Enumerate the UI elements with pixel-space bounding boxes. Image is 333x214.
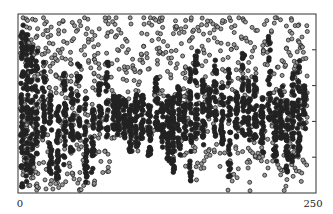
- data-point: [105, 70, 110, 75]
- data-point: [250, 25, 254, 29]
- data-point: [101, 171, 105, 175]
- data-point: [304, 56, 308, 60]
- data-point: [139, 131, 144, 136]
- data-point: [299, 179, 303, 183]
- data-point: [303, 93, 308, 98]
- data-point: [290, 18, 294, 22]
- data-point: [115, 132, 120, 137]
- data-point: [70, 91, 75, 96]
- data-point: [47, 101, 52, 106]
- data-point: [211, 22, 215, 26]
- data-point: [274, 144, 279, 149]
- data-point: [241, 82, 246, 87]
- data-point: [24, 179, 29, 184]
- data-point: [221, 113, 226, 118]
- data-point: [240, 120, 245, 125]
- data-point: [111, 104, 116, 109]
- data-point: [267, 107, 272, 112]
- data-point: [278, 130, 283, 135]
- data-point: [285, 178, 289, 182]
- data-point: [206, 19, 210, 23]
- data-point: [301, 50, 305, 54]
- data-point: [34, 88, 39, 93]
- data-point: [139, 98, 144, 103]
- data-point: [63, 88, 68, 93]
- data-point: [206, 38, 210, 42]
- data-point: [115, 58, 119, 62]
- data-point: [34, 141, 39, 146]
- data-point: [164, 50, 168, 54]
- data-point: [248, 180, 252, 184]
- data-point: [85, 165, 90, 170]
- data-point: [71, 138, 76, 143]
- data-point: [284, 47, 288, 51]
- data-point: [107, 16, 111, 20]
- data-point: [292, 131, 297, 136]
- data-point: [234, 68, 238, 72]
- data-point: [292, 93, 297, 98]
- data-point: [25, 123, 29, 127]
- data-point: [158, 50, 162, 54]
- data-point: [174, 19, 178, 23]
- data-point: [269, 29, 273, 33]
- data-point: [202, 48, 206, 52]
- data-point: [260, 128, 265, 133]
- data-point: [236, 151, 240, 155]
- data-point: [234, 147, 238, 151]
- data-point: [104, 118, 109, 123]
- data-point: [226, 55, 230, 59]
- data-point: [113, 35, 117, 39]
- data-point: [155, 87, 160, 92]
- data-point: [134, 89, 138, 93]
- data-point: [155, 110, 160, 115]
- data-point: [219, 41, 223, 45]
- data-point: [279, 120, 284, 125]
- data-point: [301, 84, 306, 89]
- data-point: [226, 81, 231, 86]
- data-point: [40, 134, 45, 139]
- data-point: [192, 28, 196, 32]
- data-point: [86, 113, 90, 117]
- data-point: [142, 44, 146, 48]
- data-point: [241, 76, 246, 81]
- data-point: [201, 88, 206, 93]
- data-point: [208, 31, 212, 35]
- data-point: [171, 32, 175, 36]
- data-point: [97, 136, 101, 140]
- data-point: [42, 89, 47, 94]
- data-point: [272, 131, 277, 136]
- data-point: [54, 91, 58, 95]
- data-point: [247, 108, 252, 113]
- data-point: [127, 97, 131, 101]
- data-point: [290, 37, 294, 41]
- data-point: [259, 121, 264, 126]
- data-point: [160, 16, 164, 20]
- data-point: [126, 65, 130, 69]
- data-point: [129, 22, 133, 26]
- data-point: [301, 158, 305, 162]
- data-point: [171, 157, 176, 162]
- data-point: [279, 93, 284, 98]
- data-point: [69, 50, 73, 54]
- data-point: [253, 45, 257, 49]
- data-point: [273, 16, 277, 20]
- data-point: [99, 125, 104, 130]
- data-point: [47, 169, 52, 174]
- data-point: [237, 16, 241, 20]
- data-point: [68, 145, 73, 150]
- data-point: [70, 129, 75, 134]
- data-point: [128, 149, 133, 154]
- data-point: [204, 59, 208, 63]
- data-point: [24, 163, 29, 168]
- data-point: [305, 30, 309, 34]
- data-point: [42, 69, 47, 74]
- data-point: [110, 88, 114, 92]
- data-point: [46, 49, 50, 53]
- data-point: [90, 30, 94, 34]
- data-point: [247, 98, 252, 103]
- data-point: [161, 130, 166, 135]
- data-point: [78, 19, 82, 23]
- data-point: [200, 119, 205, 124]
- data-point: [50, 179, 54, 183]
- data-point: [236, 167, 240, 171]
